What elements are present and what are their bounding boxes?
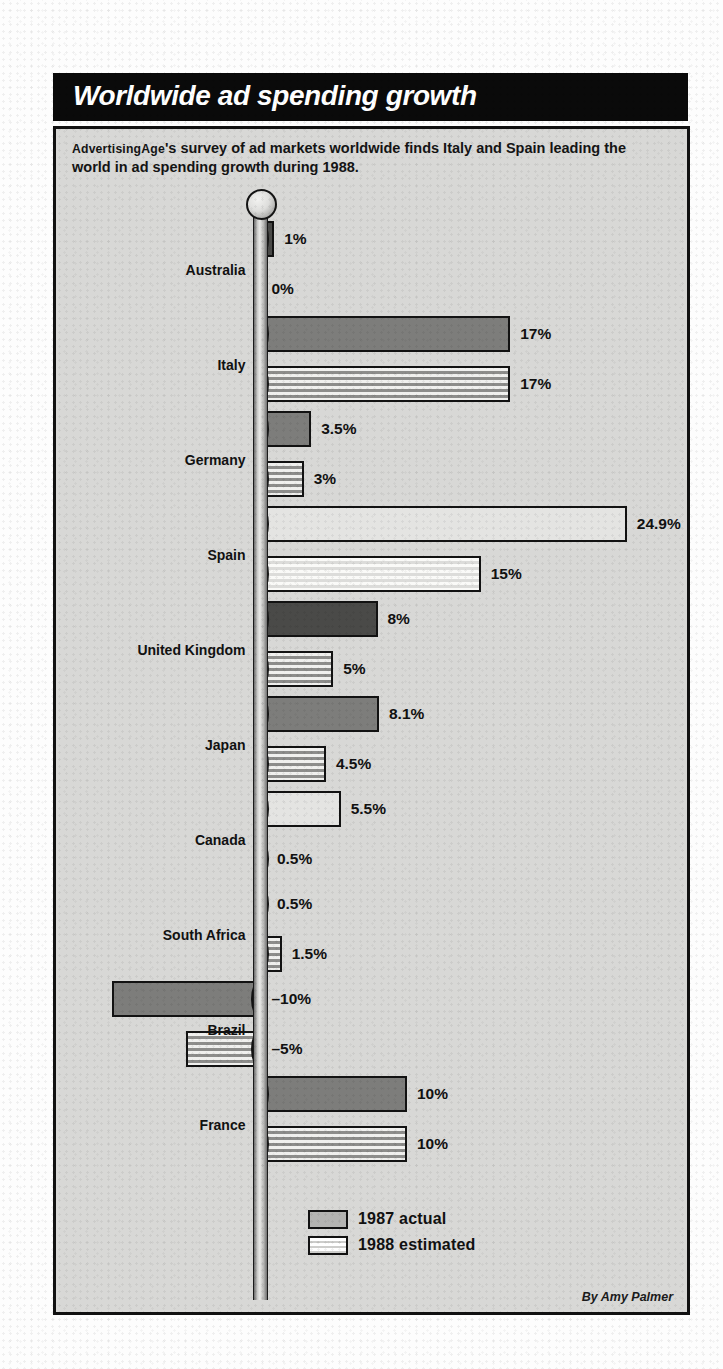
bar-united-kingdom-1988 xyxy=(260,651,334,687)
category-label-germany: Germany xyxy=(56,452,246,468)
value-label: 3.5% xyxy=(321,420,356,438)
category-label-brazil: Brazil xyxy=(56,1022,246,1038)
bar-spain-1988 xyxy=(260,556,481,592)
legend-label-1988: 1988 estimated xyxy=(358,1236,476,1254)
value-label: 1.5% xyxy=(292,945,327,963)
category-label-united-kingdom: United Kingdom xyxy=(56,642,246,658)
category-label-canada: Canada xyxy=(56,832,246,848)
value-label: 5.5% xyxy=(351,800,386,818)
category-label-australia: Australia xyxy=(56,262,246,278)
value-label: 24.9% xyxy=(637,515,681,533)
bar-brazil-1987 xyxy=(112,981,260,1017)
value-label: 5% xyxy=(343,660,365,678)
infographic: Worldwide ad spending growth Advertising… xyxy=(53,73,688,1313)
value-label: 4.5% xyxy=(336,755,371,773)
category-label-spain: Spain xyxy=(56,547,246,563)
legend-swatch-1987 xyxy=(308,1210,348,1229)
chart-frame: AdvertisingAge's survey of ad markets wo… xyxy=(53,126,690,1315)
category-label-france: France xyxy=(56,1117,246,1133)
category-label-italy: Italy xyxy=(56,357,246,373)
value-label: 1% xyxy=(284,230,306,248)
title-bar: Worldwide ad spending growth xyxy=(53,73,688,121)
credit-byline: By Amy Palmer xyxy=(582,1290,673,1304)
value-label: –5% xyxy=(272,1040,303,1058)
value-label: 3% xyxy=(314,470,336,488)
value-label: 8.1% xyxy=(389,705,424,723)
bar-france-1987 xyxy=(260,1076,408,1112)
bar-spain-1987 xyxy=(260,506,627,542)
page-title: Worldwide ad spending growth xyxy=(73,80,477,112)
newsprint-page: Worldwide ad spending growth Advertising… xyxy=(0,0,723,1369)
value-label: 0% xyxy=(272,280,294,298)
value-label: 17% xyxy=(520,325,551,343)
plot-area: 1%0%Australia17%17%Italy3.5%3%Germany24.… xyxy=(56,129,687,1312)
bar-united-kingdom-1987 xyxy=(260,601,378,637)
value-label: 10% xyxy=(417,1135,448,1153)
value-label: –10% xyxy=(272,990,312,1008)
bar-france-1988 xyxy=(260,1126,408,1162)
bar-japan-1987 xyxy=(260,696,379,732)
value-label: 15% xyxy=(491,565,522,583)
value-label: 0.5% xyxy=(277,895,312,913)
value-label: 0.5% xyxy=(277,850,312,868)
legend-swatch-1988 xyxy=(308,1236,348,1255)
bar-italy-1987 xyxy=(260,316,511,352)
value-label: 10% xyxy=(417,1085,448,1103)
legend-label-1987: 1987 actual xyxy=(358,1210,446,1228)
value-label: 17% xyxy=(520,375,551,393)
value-label: 8% xyxy=(388,610,410,628)
bar-canada-1987 xyxy=(260,791,341,827)
bar-japan-1988 xyxy=(260,746,326,782)
category-label-japan: Japan xyxy=(56,737,246,753)
zero-axis-pole xyxy=(253,207,268,1300)
axis-ball-icon xyxy=(246,189,277,220)
bar-italy-1988 xyxy=(260,366,511,402)
category-label-south-africa: South Africa xyxy=(56,927,246,943)
